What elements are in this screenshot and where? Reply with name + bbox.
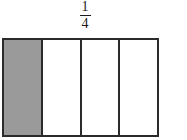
fraction-numerator: 1: [82, 0, 89, 14]
fraction-label: 1 4: [68, 0, 102, 34]
bar-cell-1: [2, 38, 43, 137]
bar-model-area: [2, 38, 159, 137]
bar-cell-4: [118, 38, 159, 137]
bar-cell-3: [80, 38, 121, 137]
fraction-denominator: 4: [82, 17, 89, 31]
bar-model: [2, 38, 159, 137]
fraction-figure: 1 4: [0, 0, 187, 140]
bar-cell-2: [41, 38, 82, 137]
